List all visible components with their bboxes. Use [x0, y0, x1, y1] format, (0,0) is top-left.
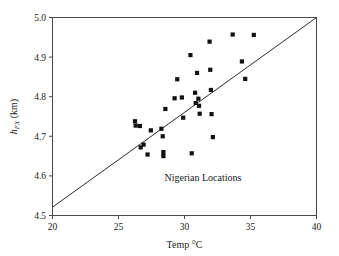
- data-point: [196, 97, 200, 101]
- x-tick-label: 35: [246, 222, 256, 232]
- data-point: [161, 150, 165, 154]
- x-tick-label: 25: [114, 222, 124, 232]
- data-point: [198, 112, 202, 116]
- data-point: [161, 154, 165, 158]
- y-tick-label: 4.7: [34, 132, 46, 142]
- data-point: [207, 40, 211, 44]
- y-tick-label: 4.5: [34, 211, 46, 221]
- data-point: [180, 95, 184, 99]
- data-point: [211, 135, 215, 139]
- data-point: [195, 71, 199, 75]
- y-tick-label: 4.8: [34, 92, 46, 102]
- annotation-label: Nigerian Locations: [165, 172, 242, 183]
- data-point: [134, 124, 138, 128]
- data-point: [231, 32, 235, 36]
- data-point: [209, 88, 213, 92]
- data-point: [243, 77, 247, 81]
- data-point: [138, 124, 142, 128]
- data-point: [163, 107, 167, 111]
- data-point: [159, 127, 163, 131]
- chart-canvas: 2025303540 4.54.64.74.84.95.0 Nigerian L…: [0, 0, 339, 256]
- scatter-plot-figure: 2025303540 4.54.64.74.84.95.0 Nigerian L…: [0, 0, 339, 256]
- data-point: [188, 53, 192, 57]
- y-tick-label: 4.9: [34, 53, 46, 63]
- data-point: [141, 143, 145, 147]
- y-tick-label: 5.0: [34, 13, 46, 23]
- data-point: [181, 116, 185, 120]
- plot-annotation: Nigerian Locations: [165, 172, 242, 183]
- data-point: [209, 112, 213, 116]
- data-point: [175, 77, 179, 81]
- data-point: [240, 59, 244, 63]
- x-tick-label: 40: [312, 222, 322, 232]
- data-point: [149, 128, 153, 132]
- data-point: [252, 33, 256, 37]
- x-axis-title: Temp °C: [167, 239, 203, 250]
- data-point: [208, 68, 212, 72]
- y-tick-label: 4.6: [34, 171, 46, 181]
- x-tick-label: 20: [48, 222, 58, 232]
- data-point: [133, 119, 137, 123]
- data-point: [173, 96, 177, 100]
- x-axis-title-text: Temp °C: [167, 239, 203, 250]
- data-point: [197, 104, 201, 108]
- x-tick-label: 30: [180, 222, 190, 232]
- data-point: [161, 134, 165, 138]
- data-point: [193, 91, 197, 95]
- data-point: [190, 151, 194, 155]
- data-point: [145, 152, 149, 156]
